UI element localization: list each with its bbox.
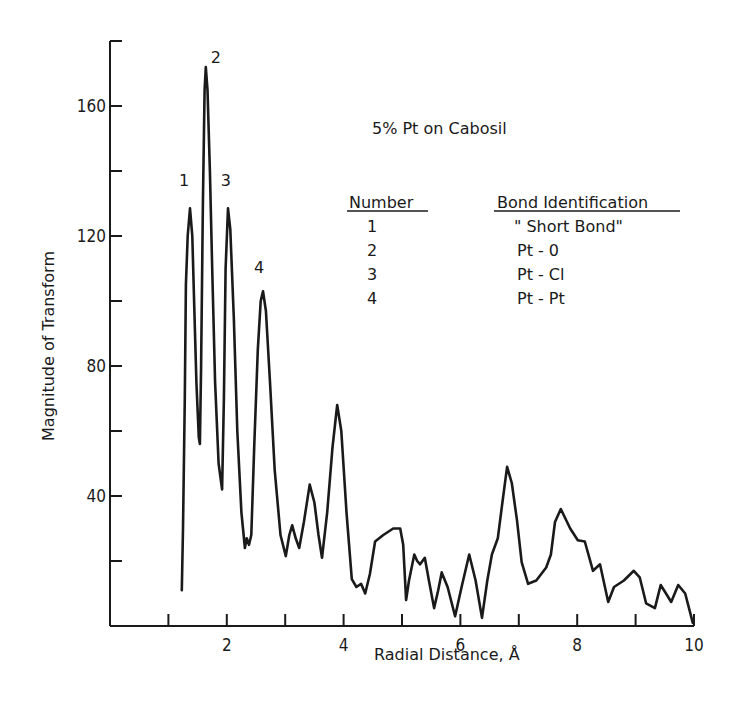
x-tick-label: 4 [339, 635, 349, 655]
legend-row-number: 2 [367, 241, 377, 260]
peak-label: 4 [254, 258, 264, 277]
y-tick-label: 40 [87, 486, 106, 506]
x-tick-label: 2 [222, 635, 232, 655]
y-axis-label: Magnitude of Transform [39, 251, 58, 441]
y-tick-label: 120 [77, 226, 106, 246]
x-tick-label: 10 [684, 635, 703, 655]
peak-label: 1 [179, 171, 189, 190]
legend-table: Number Bond Identification 1 " Short Bon… [347, 193, 680, 308]
x-axis-label: Radial Distance, Å [374, 645, 520, 664]
data-line [182, 67, 693, 623]
legend-row-number: 1 [367, 217, 377, 236]
legend-header-bond: Bond Identification [497, 193, 648, 212]
x-tick-label: 8 [572, 635, 582, 655]
legend-row-number: 3 [367, 265, 377, 284]
legend-row-bond: Pt - 0 [517, 241, 559, 260]
legend-row-bond: " Short Bond" [514, 217, 623, 236]
y-tick-label: 160 [77, 96, 106, 116]
y-tick-label: 80 [87, 356, 106, 376]
legend-header-number: Number [349, 193, 414, 212]
chart: 2468104080120160 1234 5% Pt on Cabosil N… [0, 0, 732, 701]
legend-row-bond: Pt - Cl [517, 265, 564, 284]
legend-row-bond: Pt - Pt [517, 289, 565, 308]
legend-row-number: 4 [367, 289, 377, 308]
axis-tick-labels: 2468104080120160 [77, 96, 704, 655]
peak-label: 3 [221, 171, 231, 190]
chart-title: 5% Pt on Cabosil [372, 119, 507, 138]
peak-label: 2 [211, 48, 221, 67]
